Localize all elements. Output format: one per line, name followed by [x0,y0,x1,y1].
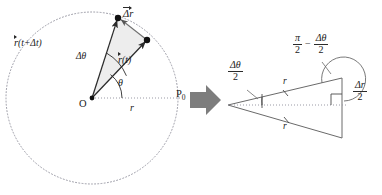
label-top-angle-expression: π 2 − Δθ 2 [293,33,328,55]
label-vector-r-t: r(t) [118,55,131,66]
label-radius-r: r [130,103,134,113]
deltar-numerator: Δr [353,80,367,91]
label-vector-delta-r: Δr [123,9,133,20]
label-point-p0: P0 [176,89,186,102]
label-lower-side-r: r [283,122,287,132]
apex-frac-numerator: Δθ [228,60,243,71]
label-apex-angle-delta-theta-over-2: Δθ 2 [228,60,243,82]
pi-denominator: 2 [293,44,302,56]
label-delta-r-over-2: Δr 2 [353,80,367,102]
label-vector-r-t-plus-dt: r(t+Δt) [14,38,42,49]
figure-canvas: r(t+Δt) Δr r(t) Δθ θ O r P0 Δθ 2 r r π 2… [0,0,382,195]
point-origin [90,96,95,101]
right-angle-mark [331,94,342,105]
apex-frac-denominator: 2 [228,71,243,83]
label-upper-side-r: r [283,77,287,87]
pi-numerator: π [293,33,302,44]
label-p-subscript: 0 [182,93,186,102]
minus-sign: − [302,39,314,49]
label-origin: O [79,99,87,110]
transition-block-arrow [190,85,221,115]
label-angle-delta-theta: Δθ [76,52,86,62]
dtheta-denominator: 2 [314,44,329,56]
apex-label-leader [247,90,258,99]
label-angle-theta: θ [118,78,123,88]
label-r-argument: (t+Δt) [18,38,42,48]
diagram-vector-graphics [0,0,382,195]
dtheta-numerator: Δθ [314,33,329,44]
point-p-t-plus-dt [115,15,121,21]
top-angle-label-leader [322,62,331,74]
deltar-denominator: 2 [353,91,367,103]
point-p-t [144,37,150,43]
